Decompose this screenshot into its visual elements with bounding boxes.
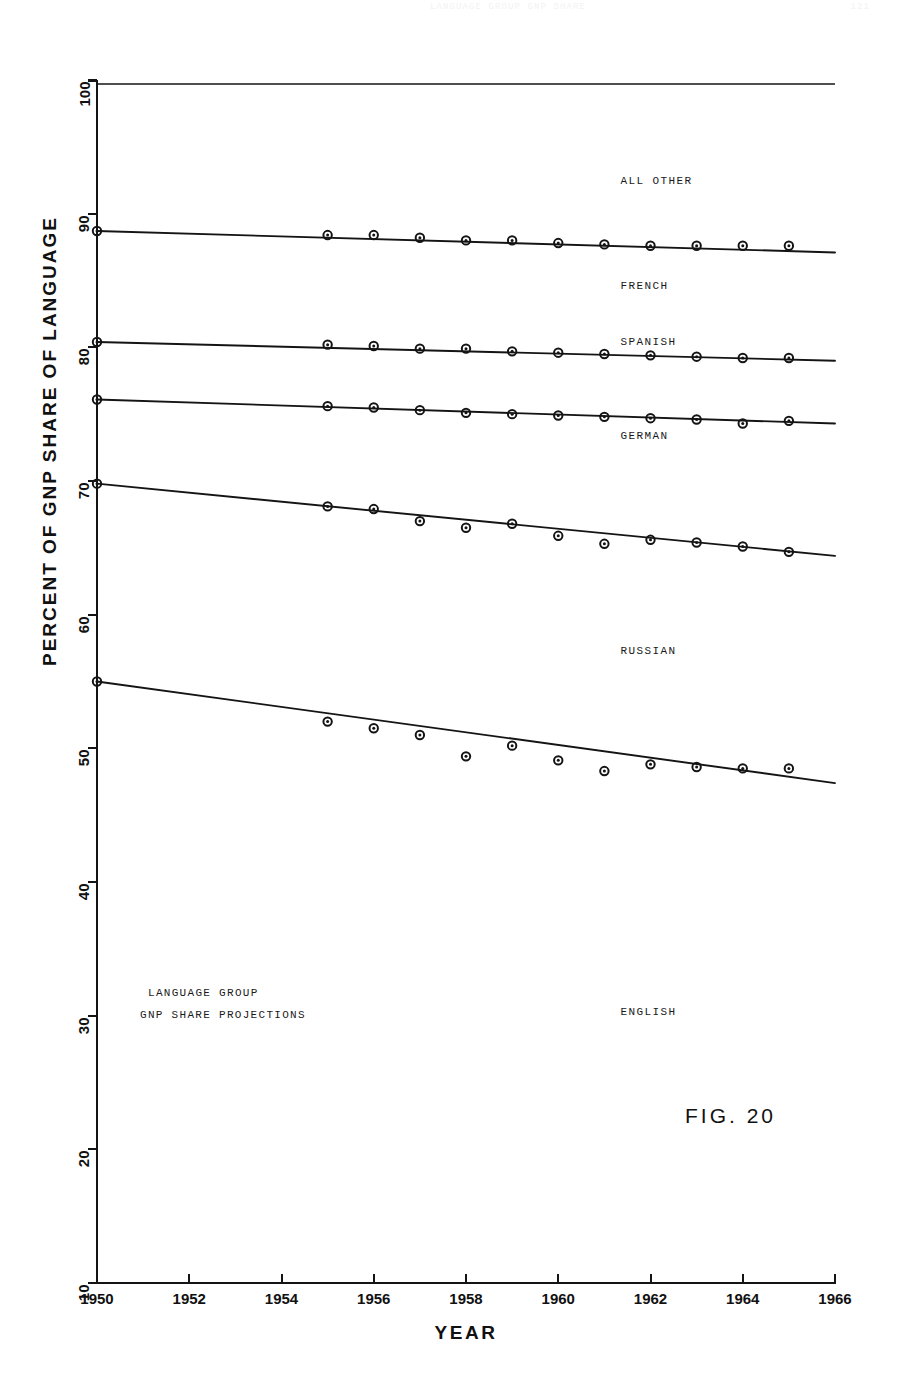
data-point-marker — [323, 340, 331, 348]
data-point-center — [372, 234, 375, 237]
data-point-center — [372, 508, 375, 511]
data-point-marker — [646, 536, 654, 544]
data-point-marker — [416, 344, 424, 352]
x-axis-tick-label: 1958 — [436, 1290, 496, 1307]
x-axis-tick — [188, 1274, 190, 1283]
data-point-marker — [554, 411, 562, 419]
data-point-marker — [785, 548, 793, 556]
data-point-center — [695, 541, 698, 544]
series-spanish — [93, 395, 835, 427]
data-point-marker — [508, 520, 516, 528]
y-axis-tick-label: 100 — [0, 73, 84, 87]
data-point-center — [372, 344, 375, 347]
data-point-marker — [554, 348, 562, 356]
data-point-marker — [692, 242, 700, 250]
data-point-center — [557, 351, 560, 354]
data-point-marker — [462, 236, 470, 244]
data-point-center — [511, 744, 514, 747]
data-point-marker — [508, 410, 516, 418]
trend-line — [97, 342, 835, 361]
trend-line — [97, 484, 835, 556]
data-point-marker — [416, 517, 424, 525]
x-axis-tick-label: 1966 — [805, 1290, 865, 1307]
data-point-center — [326, 234, 329, 237]
data-point-marker — [554, 239, 562, 247]
series-label-french: FRENCH — [621, 280, 669, 292]
y-axis-tick-label-text: 40 — [76, 884, 93, 901]
data-point-center — [418, 520, 421, 523]
data-point-center — [649, 417, 652, 420]
series-label-german: GERMAN — [621, 430, 669, 442]
data-point-marker — [462, 344, 470, 352]
data-point-marker — [739, 354, 747, 362]
caption-line-1: LANGUAGE GROUP — [148, 982, 306, 1004]
x-axis-tick — [742, 1274, 744, 1283]
data-point-marker — [785, 764, 793, 772]
series-german — [93, 479, 835, 556]
data-point-marker — [739, 242, 747, 250]
caption-line-2: GNP SHARE PROJECTIONS — [140, 1004, 306, 1026]
data-point-marker — [370, 724, 378, 732]
data-point-marker — [462, 524, 470, 532]
data-point-center — [511, 522, 514, 525]
x-axis-tick-label: 1954 — [252, 1290, 312, 1307]
data-point-center — [465, 411, 468, 414]
data-point-center — [418, 347, 421, 350]
figure-caption: LANGUAGE GROUP GNP SHARE PROJECTIONS — [148, 982, 306, 1026]
data-point-marker — [600, 350, 608, 358]
data-point-center — [603, 415, 606, 418]
x-axis-tick-label: 1956 — [344, 1290, 404, 1307]
data-point-marker — [416, 234, 424, 242]
trend-line — [97, 399, 835, 423]
data-point-marker — [416, 731, 424, 739]
data-point-marker — [692, 352, 700, 360]
data-point-marker — [323, 402, 331, 410]
y-axis-tick-label-text: 100 — [76, 82, 93, 107]
data-point-marker — [508, 741, 516, 749]
data-point-marker — [370, 403, 378, 411]
y-axis-tick-label: 20 — [0, 1142, 84, 1156]
data-point-center — [741, 545, 744, 548]
x-axis-tick — [281, 1274, 283, 1283]
y-axis-tick-label-text: 80 — [76, 349, 93, 366]
data-point-center — [557, 414, 560, 417]
data-point-marker — [646, 242, 654, 250]
data-point-marker — [785, 417, 793, 425]
series-label-spanish: SPANISH — [621, 336, 677, 348]
data-point-marker — [646, 760, 654, 768]
data-point-center — [649, 354, 652, 357]
data-point-center — [695, 355, 698, 358]
y-axis-tick-label: 40 — [0, 875, 84, 889]
data-point-center — [741, 357, 744, 360]
y-axis-title: PERCENT OF GNP SHARE OF LANGUAGE — [39, 91, 61, 791]
x-axis-tick — [650, 1274, 652, 1283]
y-axis-tick-label-text: 70 — [76, 483, 93, 500]
data-point-center — [511, 239, 514, 242]
y-axis-tick — [88, 1015, 97, 1017]
trend-line — [97, 682, 835, 784]
data-point-center — [741, 767, 744, 770]
series-label-english: ENGLISH — [621, 1006, 677, 1018]
data-point-center — [603, 353, 606, 356]
page-header-text: LANGUAGE GROUP GNP SHARE — [430, 2, 586, 12]
data-point-marker — [370, 342, 378, 350]
data-point-center — [787, 767, 790, 770]
y-axis-tick-label-text: 60 — [76, 616, 93, 633]
data-point-marker — [323, 231, 331, 239]
data-point-center — [649, 244, 652, 247]
data-point-center — [326, 343, 329, 346]
data-point-center — [603, 243, 606, 246]
y-axis-tick-label-text: 50 — [76, 750, 93, 767]
x-axis-tick-label: 1960 — [528, 1290, 588, 1307]
data-point-center — [649, 763, 652, 766]
data-point-marker — [462, 752, 470, 760]
data-point-center — [787, 550, 790, 553]
x-axis-tick — [465, 1274, 467, 1283]
data-point-marker — [323, 502, 331, 510]
trend-line — [97, 231, 835, 252]
y-axis-tick — [88, 614, 97, 616]
data-point-marker — [416, 406, 424, 414]
data-point-center — [465, 239, 468, 242]
x-axis-tick-label: 1950 — [67, 1290, 127, 1307]
series-all-other — [93, 227, 835, 253]
